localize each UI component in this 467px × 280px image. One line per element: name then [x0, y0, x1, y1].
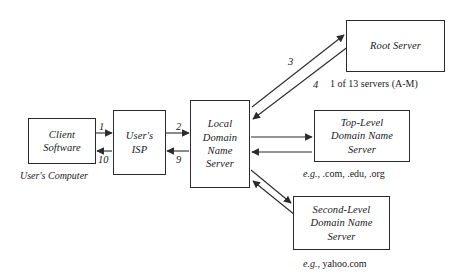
node-users-isp-line-1: User's — [126, 129, 153, 142]
node-sld-server-line-3: Server — [327, 230, 355, 243]
node-local-dns-line-2: Domain — [203, 131, 237, 144]
node-client-software-line-1: Client — [49, 128, 75, 141]
edge-8-sld-to-local-dns — [253, 181, 295, 215]
node-local-domain-name-server[interactable]: Local Domain Name Server — [190, 100, 250, 188]
edge-7-local-dns-to-sld — [251, 170, 291, 203]
edge-label-2: 2 — [176, 122, 181, 133]
edge-label-4: 4 — [313, 80, 318, 91]
node-root-server[interactable]: Root Server — [346, 20, 445, 72]
node-second-level-domain-name-server[interactable]: Second-Level Domain Name Server — [293, 196, 390, 250]
caption-sld-eg: e.g., — [303, 258, 320, 269]
edge-3-local-dns-to-root — [252, 35, 344, 107]
node-sld-server-line-2: Domain Name — [310, 216, 372, 229]
node-local-dns-line-1: Local — [208, 117, 232, 130]
node-client-software[interactable]: Client Software — [28, 118, 96, 164]
dns-resolution-diagram: Client Software User's ISP Local Domain … — [0, 0, 467, 280]
caption-sld-list: yahoo.com — [320, 258, 367, 269]
node-tld-server-line-3: Server — [348, 143, 376, 156]
edge-label-3: 3 — [288, 57, 293, 68]
node-users-isp[interactable]: User's ISP — [113, 110, 166, 175]
node-local-dns-line-3: Name — [208, 144, 233, 157]
node-sld-server-line-1: Second-Level — [313, 203, 371, 216]
caption-users-computer: User's Computer — [20, 170, 88, 182]
node-root-server-line-1: Root Server — [370, 39, 421, 52]
edge-label-10: 10 — [98, 155, 109, 166]
node-users-isp-line-2: ISP — [132, 143, 147, 156]
edge-label-9: 9 — [176, 155, 181, 166]
caption-root-servers-note: 1 of 13 servers (A-M) — [330, 78, 418, 90]
node-local-dns-line-4: Server — [206, 157, 234, 170]
caption-tld-examples: e.g., .com, .edu, .org — [303, 168, 385, 180]
caption-tld-eg: e.g., — [303, 168, 320, 179]
caption-sld-examples: e.g., yahoo.com — [303, 258, 367, 270]
node-tld-server-line-1: Top-Level — [341, 116, 384, 129]
node-top-level-domain-name-server[interactable]: Top-Level Domain Name Server — [314, 110, 410, 162]
edge-label-1: 1 — [99, 122, 104, 133]
node-tld-server-line-2: Domain Name — [331, 129, 393, 142]
caption-tld-list: .com, .edu, .org — [320, 168, 385, 179]
node-client-software-line-2: Software — [43, 141, 81, 154]
